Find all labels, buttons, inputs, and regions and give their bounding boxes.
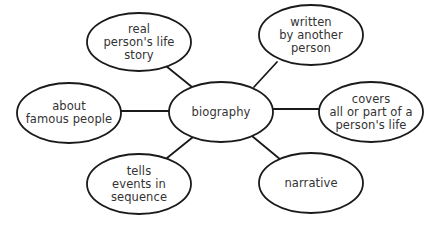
label-written-by-another: written by another person — [259, 5, 363, 65]
label-narrative: narrative — [259, 153, 363, 213]
label-tells-events: tells events in sequence — [87, 154, 191, 214]
label-about-famous-people: about famous people — [17, 83, 121, 143]
center-label-biography: biography — [169, 82, 273, 142]
label-covers-life: covers all or part of a person's life — [319, 82, 423, 142]
label-real-life-story: real person's life story — [87, 13, 191, 71]
